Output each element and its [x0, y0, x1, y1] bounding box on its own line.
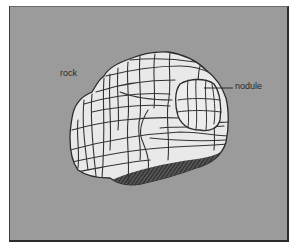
rock-illustration — [0, 0, 293, 248]
nodule-label: nodule — [235, 82, 262, 91]
rock-label: rock — [60, 69, 77, 78]
nodule — [176, 79, 221, 131]
